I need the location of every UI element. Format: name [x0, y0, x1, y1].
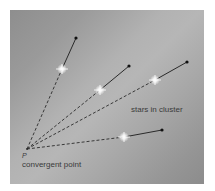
- proper-motion-arrow: [124, 130, 162, 137]
- star-spike-icon: [149, 75, 161, 85]
- arrow-head-icon: [127, 64, 130, 67]
- convergent-point-label: convergent point: [22, 160, 81, 169]
- arrow-head-icon: [160, 128, 163, 131]
- dashed-projection-line: [27, 80, 155, 149]
- arrow-head-icon: [74, 36, 77, 39]
- proper-motion-arrow: [62, 38, 76, 69]
- proper-motion-arrow: [155, 62, 187, 80]
- proper-motion-arrow: [100, 66, 129, 90]
- star-spike-icon: [118, 132, 130, 142]
- star-spike-icon: [56, 64, 68, 74]
- dashed-projection-line: [27, 69, 62, 149]
- dashed-projection-line: [27, 90, 100, 149]
- dashed-projection-line: [27, 137, 124, 149]
- arrow-head-icon: [185, 60, 188, 63]
- convergent-point-marker: [26, 148, 28, 150]
- stars-in-cluster-label: stars in cluster: [131, 105, 183, 114]
- point-p-label: P: [22, 152, 27, 159]
